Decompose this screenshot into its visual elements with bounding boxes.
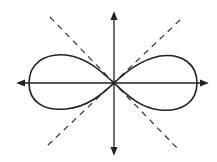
lemniscate-diagram (0, 0, 217, 162)
